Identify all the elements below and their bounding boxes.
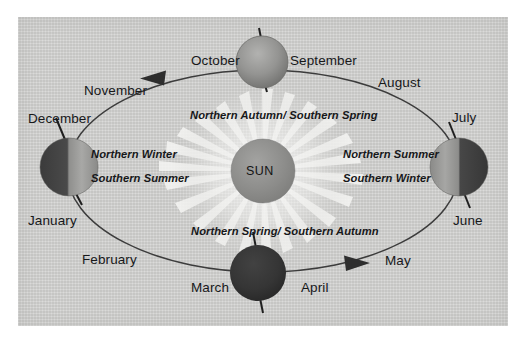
earth-december-january xyxy=(40,118,98,205)
month-label-november: November xyxy=(84,84,147,98)
month-label-april: April xyxy=(301,281,329,295)
diagram-canvas: SUN January February March April May Jun… xyxy=(0,0,526,343)
month-label-january: January xyxy=(28,214,77,228)
sun-label: SUN xyxy=(246,165,274,178)
month-label-august: August xyxy=(378,76,421,90)
season-label-northern-autumn-southern-spring: Northern Autumn/ Southern Spring xyxy=(190,110,378,121)
arrow-bottom-icon xyxy=(344,256,370,272)
month-label-december: December xyxy=(28,112,91,126)
month-label-september: September xyxy=(290,54,357,68)
month-label-february: February xyxy=(82,253,137,267)
season-label-northern-winter: Northern Winter xyxy=(91,149,177,160)
earth-june-july xyxy=(430,122,488,208)
season-label-southern-summer: Southern Summer xyxy=(91,173,189,184)
season-label-northern-summer: Northern Summer xyxy=(343,149,439,160)
month-label-october: October xyxy=(191,54,240,68)
month-label-march: March xyxy=(191,281,229,295)
season-label-northern-spring-southern-autumn: Northern Spring/ Southern Autumn xyxy=(191,226,379,237)
month-label-june: June xyxy=(453,214,483,228)
month-label-july: July xyxy=(452,111,476,125)
season-label-southern-winter: Southern Winter xyxy=(343,173,431,184)
month-label-may: May xyxy=(385,254,411,268)
